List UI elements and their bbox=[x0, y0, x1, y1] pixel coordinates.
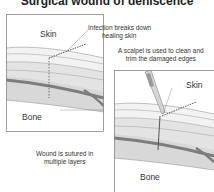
infection-callout-line1: Infection breaks down bbox=[88, 24, 151, 32]
left-bone-label: Bone bbox=[22, 112, 42, 122]
suture-callout-line2: multiple layers bbox=[36, 158, 93, 166]
scalpel-callout: A scalpel is used to clean and trim the … bbox=[118, 47, 204, 62]
right-skin-label: Skin bbox=[186, 80, 203, 90]
suture-callout: Wound is sutured in multiple layers bbox=[36, 150, 93, 165]
right-bone-label: Bone bbox=[140, 172, 160, 182]
infection-callout: Infection breaks down healing skin bbox=[88, 24, 151, 39]
left-skin-label: Skin bbox=[40, 29, 57, 39]
infection-callout-line2: healing skin bbox=[88, 32, 151, 40]
suture-callout-line1: Wound is sutured in bbox=[36, 150, 93, 158]
scalpel-callout-line1: A scalpel is used to clean and bbox=[118, 47, 204, 55]
scalpel-callout-line2: trim the damaged edges bbox=[118, 55, 204, 63]
